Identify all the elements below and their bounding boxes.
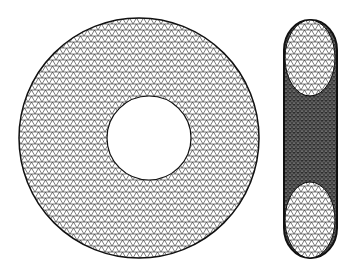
torus-side-view [284,20,337,258]
torus-mesh-figure [0,0,355,270]
side-top-cap [285,20,335,96]
torus-hole [107,96,191,180]
side-bottom-cap [285,182,335,258]
torus-top-view [19,18,259,258]
